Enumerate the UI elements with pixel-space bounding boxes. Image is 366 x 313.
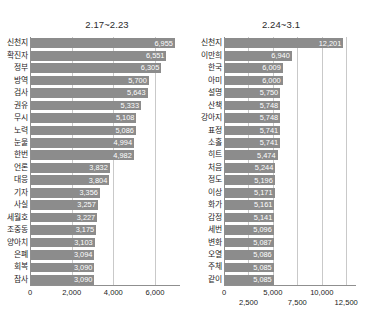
bar-row: 5,087 xyxy=(224,236,356,248)
category-label-text: 변화 xyxy=(208,239,222,247)
bar-value-label: 3,103 xyxy=(74,239,95,246)
bar: 5,171 xyxy=(224,188,275,198)
category-label: 확진자 xyxy=(0,49,28,61)
bar: 6,000 xyxy=(224,76,283,86)
bar-value-label: 5,643 xyxy=(127,89,148,96)
bar-row: 5,086 xyxy=(30,124,180,136)
bar-value-label: 6,955 xyxy=(154,40,175,47)
bar-row: 3,356 xyxy=(30,186,180,198)
category-label-text: 노력 xyxy=(14,127,28,135)
bar: 4,994 xyxy=(30,138,134,148)
bar: 4,982 xyxy=(30,150,134,160)
bar-value-label: 5,096 xyxy=(253,226,274,233)
bar: 3,090 xyxy=(30,275,94,285)
bar: 5,087 xyxy=(224,238,274,248)
bar-value-label: 5,141 xyxy=(254,214,275,221)
category-label: 강아지 xyxy=(188,112,222,124)
category-label: 회복 xyxy=(0,261,28,273)
bar-value-label: 6,551 xyxy=(146,52,167,59)
category-label-text: 신천지 xyxy=(7,39,28,47)
bar-row: 4,994 xyxy=(30,137,180,149)
category-label: 참사 xyxy=(0,274,28,286)
bar-row: 5,086 xyxy=(224,249,356,261)
category-label: 한국 xyxy=(188,62,222,74)
x-tick-label: 2,000 xyxy=(62,289,81,297)
bar: 3,356 xyxy=(30,188,100,198)
category-label: 세번 xyxy=(188,224,222,236)
category-label: 방역 xyxy=(0,74,28,86)
category-label: 히트 xyxy=(188,149,222,161)
category-label-text: 세월호 xyxy=(7,214,28,222)
category-label-text: 정부 xyxy=(14,64,28,72)
bar-value-label: 4,982 xyxy=(113,152,134,159)
bar-row: 5,333 xyxy=(30,99,180,111)
bar-row: 5,108 xyxy=(30,112,180,124)
category-label-text: 히트 xyxy=(208,151,222,159)
bar-value-label: 5,750 xyxy=(260,89,281,96)
category-label-text: 처음 xyxy=(208,164,222,172)
category-label-text: 눈물 xyxy=(14,139,28,147)
category-label-text: 이상 xyxy=(208,189,222,197)
bar: 5,741 xyxy=(224,126,280,136)
bar-row: 3,257 xyxy=(30,199,180,211)
bar: 12,201 xyxy=(224,38,343,48)
category-label: 주체 xyxy=(188,261,222,273)
bar: 5,333 xyxy=(30,101,141,111)
bar-rows-right: 12,2016,9406,0096,0005,7505,7485,7485,74… xyxy=(224,37,356,286)
category-label-text: 이만희 xyxy=(201,52,222,60)
bar-row: 5,096 xyxy=(224,224,356,236)
bar-row: 3,094 xyxy=(30,249,180,261)
x-tick-label: 0 xyxy=(222,289,226,297)
category-label: 설명 xyxy=(188,87,222,99)
category-label: 신천지 xyxy=(0,37,28,49)
chart-panel-right: 2.24~3.1 신천지이만희한국아미설명산책강아지표정소홀히트처음정도이상화가… xyxy=(186,0,366,313)
category-label: 감정 xyxy=(188,211,222,223)
bar-value-label: 5,086 xyxy=(115,127,136,134)
category-label-text: 은폐 xyxy=(14,251,28,259)
category-axis-right: 신천지이만희한국아미설명산책강아지표정소홀히트처음정도이상화가감정세번변화오열주… xyxy=(188,37,222,286)
category-label-text: 한번 xyxy=(14,151,28,159)
bar-row: 5,700 xyxy=(30,74,180,86)
category-label-text: 양아치 xyxy=(7,239,28,247)
plot-area-right: 12,2016,9406,0096,0005,7505,7485,7485,74… xyxy=(224,37,356,286)
bar-row: 5,748 xyxy=(224,112,356,124)
bar: 6,305 xyxy=(30,63,161,73)
bar: 5,085 xyxy=(224,275,274,285)
bar-value-label: 5,086 xyxy=(253,251,274,258)
category-label-text: 정도 xyxy=(208,176,222,184)
category-label: 정부 xyxy=(0,62,28,74)
bar: 6,955 xyxy=(30,38,175,48)
bar-value-label: 3,227 xyxy=(77,214,98,221)
category-label-text: 회복 xyxy=(14,263,28,271)
category-label: 양아치 xyxy=(0,236,28,248)
bar-value-label: 6,940 xyxy=(271,52,292,59)
category-label-text: 소홀 xyxy=(208,139,222,147)
bar-value-label: 6,305 xyxy=(141,64,162,71)
bar-row: 3,175 xyxy=(30,224,180,236)
category-label-text: 설명 xyxy=(208,89,222,97)
bar-row: 5,141 xyxy=(224,211,356,223)
plot-area-left: 6,9556,5516,3055,7005,6435,3335,1085,086… xyxy=(30,37,180,286)
bar-value-label: 3,356 xyxy=(79,189,100,196)
category-label-text: 감정 xyxy=(208,214,222,222)
bar: 5,086 xyxy=(224,250,274,260)
bar: 3,103 xyxy=(30,238,95,248)
bar-value-label: 5,700 xyxy=(128,77,149,84)
category-label: 눈물 xyxy=(0,137,28,149)
x-axis-ticks-left: 02,0004,0006,000 xyxy=(30,288,180,310)
category-label-text: 신천지 xyxy=(201,39,222,47)
bar-value-label: 12,201 xyxy=(319,40,344,47)
category-label-text: 언론 xyxy=(14,164,28,172)
category-label-text: 사실 xyxy=(14,201,28,209)
category-label-text: 산책 xyxy=(208,102,222,110)
category-label: 아미 xyxy=(188,74,222,86)
category-label: 같이 xyxy=(188,274,222,286)
bar-value-label: 4,994 xyxy=(114,139,135,146)
bar-rows-left: 6,9556,5516,3055,7005,6435,3335,1085,086… xyxy=(30,37,180,286)
bar: 5,748 xyxy=(224,113,280,123)
bar-value-label: 5,161 xyxy=(254,201,275,208)
bar: 3,804 xyxy=(30,175,109,185)
category-label: 기자 xyxy=(0,186,28,198)
x-axis-ticks-right: 02,5005,0007,50010,00012,500 xyxy=(224,288,356,312)
category-label-text: 주체 xyxy=(208,263,222,271)
